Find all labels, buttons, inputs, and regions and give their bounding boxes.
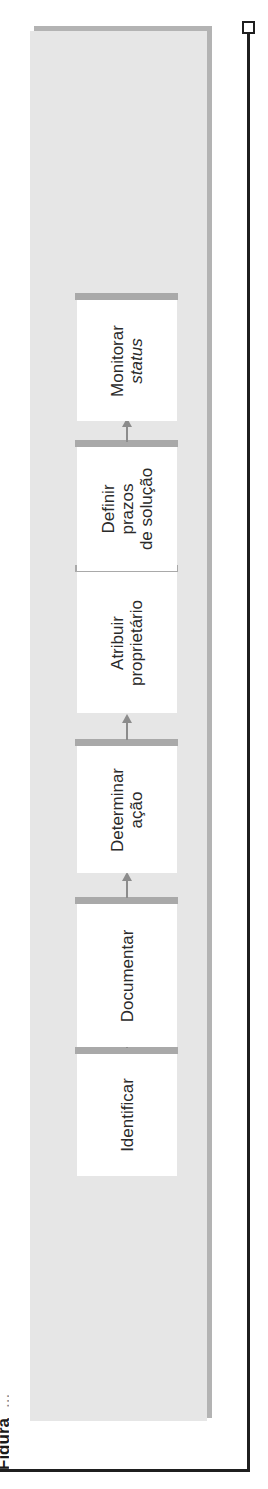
- arrow-up-icon: [121, 872, 133, 898]
- figure-caption: Figura...: [0, 1394, 9, 1470]
- arrow-up-icon: [121, 714, 133, 740]
- frame-horizontal-line: [0, 1469, 250, 1472]
- step-box-definir-prazos: Definir prazos de solução: [77, 447, 177, 571]
- step-bar-monitorar-status: [75, 293, 178, 300]
- step-label-line: de solução: [137, 468, 156, 550]
- step-label-line: Identificar: [118, 1078, 137, 1152]
- step-label: Definir prazos de solução: [99, 468, 156, 550]
- step-label-line-italic: status: [127, 325, 146, 397]
- step-label-line: proprietário: [127, 600, 146, 686]
- arrow-up-icon: [121, 418, 133, 442]
- step-label: Documentar: [118, 929, 137, 1022]
- step-box-determinar-acao: Determinar ação: [77, 746, 177, 873]
- step-label-line: ação: [127, 767, 146, 851]
- step-label: Determinar ação: [108, 767, 146, 851]
- step-label-line: Documentar: [118, 929, 137, 1022]
- frame-handle-square-icon: [242, 21, 255, 34]
- step-bar-identificar: [75, 1047, 178, 1054]
- step-bar-determinar-acao: [75, 739, 178, 746]
- step-label-line: prazos: [118, 468, 137, 550]
- step-label-line: Atribuir: [108, 600, 127, 686]
- figure-caption-rest: ...: [0, 1394, 9, 1408]
- step-box-monitorar-status: Monitorar status: [77, 300, 177, 421]
- figure-label: Figura: [0, 1418, 9, 1470]
- step-label-line: Monitorar: [108, 325, 127, 397]
- step-box-identificar: Identificar: [77, 1054, 177, 1176]
- step-box-documentar: Documentar: [77, 904, 177, 1047]
- diagram-panel: [30, 31, 207, 1421]
- figure-caption-clip: Figura...: [0, 560, 9, 1470]
- step-box-atribuir-proprietario: Atribuir proprietário: [77, 572, 177, 713]
- step-label: Identificar: [118, 1078, 137, 1152]
- frame-vertical-line: [247, 31, 250, 1472]
- step-label: Monitorar status: [108, 325, 146, 397]
- step-label-line: Determinar: [108, 767, 127, 851]
- step-label: Atribuir proprietário: [108, 600, 146, 686]
- step-label-line: Definir: [99, 468, 118, 550]
- step-bar-documentar: [75, 897, 178, 904]
